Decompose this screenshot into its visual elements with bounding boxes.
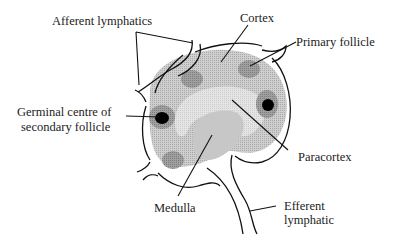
efferent-leader xyxy=(250,206,276,211)
efferent-vessel xyxy=(207,168,243,234)
efferent-vessel xyxy=(231,155,257,234)
label-efferent-line2: lymphatic xyxy=(284,213,334,227)
label-cortex: Cortex xyxy=(240,11,275,25)
germinal-centre xyxy=(262,99,274,111)
label-efferent-line1: Efferent xyxy=(284,199,325,213)
label-germinal-centre-line2: secondary follicle xyxy=(21,120,111,134)
label-paracortex: Paracortex xyxy=(298,150,352,164)
afferent-vessel xyxy=(137,162,150,172)
lymph-node-diagram: Afferent lymphatics Cortex Primary folli… xyxy=(0,0,397,246)
label-germinal-centre-line1: Germinal centre of xyxy=(17,105,112,119)
afferent-vessel xyxy=(143,175,158,180)
label-primary-follicle: Primary follicle xyxy=(296,35,375,49)
afferent-vessel xyxy=(135,90,146,102)
primary-follicle xyxy=(162,151,184,169)
germinal-centre xyxy=(155,112,169,124)
label-afferent-lymphatics: Afferent lymphatics xyxy=(52,14,152,28)
label-medulla: Medulla xyxy=(154,201,196,215)
